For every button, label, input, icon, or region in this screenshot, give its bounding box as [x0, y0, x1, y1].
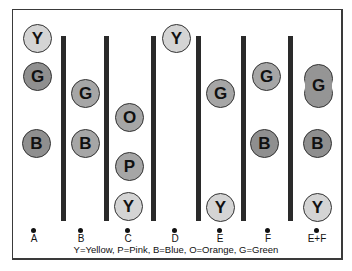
column-label-d: D [160, 233, 190, 244]
bead-yellow: Y [206, 193, 235, 222]
separator-bar [61, 36, 66, 221]
separator-bar [151, 36, 156, 221]
bead-green: G [252, 62, 281, 91]
separator-bar [241, 36, 246, 221]
bead-yellow: Y [114, 192, 143, 221]
bead-orange: O [115, 103, 144, 132]
bead-yellow: Y [303, 193, 332, 222]
bead-green: G [71, 79, 100, 108]
separator-bar [288, 36, 293, 221]
column-label-e-plus-f: E+F [302, 233, 332, 244]
bead-letter: G [304, 64, 333, 108]
color-legend: Y=Yellow, P=Pink, B=Blue, O=Orange, G=Gr… [0, 244, 352, 255]
bead-green: G [23, 62, 52, 91]
bead-yellow: Y [162, 24, 191, 53]
column-label-a: A [19, 233, 49, 244]
bead-blue: B [22, 129, 51, 158]
bead-green-double: G [304, 64, 333, 108]
column-label-c: C [113, 233, 143, 244]
separator-bar [104, 36, 109, 221]
bead-pink: P [115, 152, 144, 181]
bead-yellow: Y [23, 24, 52, 53]
bead-blue: B [250, 129, 279, 158]
column-label-f: F [253, 233, 283, 244]
separator-bar [196, 36, 201, 221]
bead-green: G [206, 79, 235, 108]
column-label-e: E [205, 233, 235, 244]
bead-blue: B [71, 129, 100, 158]
column-label-b: B [66, 233, 96, 244]
bead-blue: B [303, 129, 332, 158]
